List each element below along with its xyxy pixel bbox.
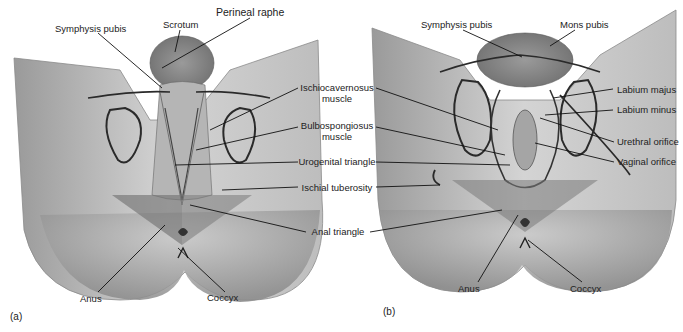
label-scrotum: Scrotum xyxy=(163,19,198,30)
label-vaginal-orifice: Vaginal orifice xyxy=(617,156,676,167)
label-symphysis-pubis-a: Symphysis pubis xyxy=(55,23,126,34)
label-bulbospongiosus-line2: muscle xyxy=(298,131,376,142)
label-bulbospongiosus-line1: Bulbospongiosus xyxy=(298,120,376,131)
panel-b-body xyxy=(372,10,676,292)
label-mons-pubis: Mons pubis xyxy=(560,19,609,30)
panel-label-b: (b) xyxy=(383,306,395,317)
label-labium-majus: Labium majus xyxy=(617,84,676,95)
label-coccyx-b: Coccyx xyxy=(570,283,601,294)
label-ischiocavernosus-line2: muscle xyxy=(298,93,376,104)
label-ischial-tuberosity: Ischial tuberosity xyxy=(298,182,376,193)
panel-a-body xyxy=(14,36,323,302)
panel-label-a: (a) xyxy=(10,311,22,322)
label-ischiocavernosus-line1: Ischiocavernosus xyxy=(298,82,376,93)
label-symphysis-pubis-b: Symphysis pubis xyxy=(421,19,492,30)
label-coccyx-a: Coccyx xyxy=(207,292,238,303)
label-perineal-raphe: Perineal raphe xyxy=(216,7,284,18)
label-labium-minus: Labium minus xyxy=(617,104,676,115)
label-anus-b: Anus xyxy=(458,283,480,294)
label-anal-triangle: Anal triangle xyxy=(306,226,370,237)
label-anus-a: Anus xyxy=(80,293,102,304)
label-urogenital-triangle: Urogenital triangle xyxy=(296,156,378,167)
label-urethral-orifice: Urethral orifice xyxy=(617,136,679,147)
